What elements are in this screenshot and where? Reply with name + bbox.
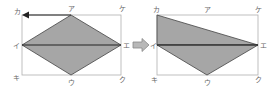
label-ku: ク (255, 76, 262, 84)
label-ke: ケ (119, 5, 126, 13)
move-arrow-head-icon (22, 12, 29, 19)
right-lower-triangle (157, 45, 258, 75)
label-ka: カ (14, 8, 21, 16)
left-figure: カ ア ケ イ エ キ ウ ク (13, 5, 130, 87)
label-u: ウ (204, 79, 211, 87)
label-e: エ (123, 42, 130, 50)
label-ka: カ (153, 6, 160, 14)
right-upper-triangle (157, 15, 258, 45)
right-figure: カ ア ケ イ エ キ ウ ク (150, 6, 267, 87)
label-u: ウ (68, 79, 75, 87)
label-ki: キ (13, 74, 20, 82)
transform-arrow-icon (133, 39, 149, 52)
diagram-canvas: カ ア ケ イ エ キ ウ ク カ ア ケ イ エ キ ウ ク (0, 0, 278, 91)
label-ku: ク (119, 76, 126, 84)
label-ke: ケ (255, 6, 262, 14)
label-i: イ (13, 42, 20, 50)
label-e: エ (260, 42, 267, 50)
label-a: ア (204, 6, 211, 14)
label-a: ア (68, 5, 75, 13)
label-i: イ (150, 42, 157, 50)
label-ki: キ (151, 76, 158, 84)
